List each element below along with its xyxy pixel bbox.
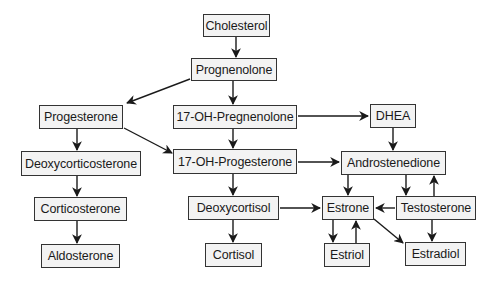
node-estradiol: Estradiol — [405, 242, 466, 266]
node-estriol: Estriol — [324, 243, 370, 267]
node-dhea: DHEA — [370, 104, 416, 128]
node-estrone: Estrone — [322, 196, 374, 220]
arrow-progesterone-to-17-oh-progesterone — [124, 128, 172, 153]
node-cortisol: Cortisol — [205, 243, 262, 267]
steroid-pathway-diagram: Cholesterol Prognenolone Progesterone 17… — [0, 0, 498, 285]
node-deoxycorticosterone: Deoxycorticosterone — [21, 151, 141, 176]
node-aldosterone: Aldosterone — [41, 244, 120, 268]
node-deoxycortisol: Deoxycortisol — [188, 196, 279, 220]
arrow-prognenolone-to-progesterone — [127, 79, 190, 103]
node-cholesterol: Cholesterol — [203, 14, 270, 37]
node-corticosterone: Corticosterone — [34, 197, 127, 221]
node-androstenedione: Androstenedione — [341, 151, 446, 175]
node-17-oh-progesterone: 17-OH-Progesterone — [173, 149, 297, 174]
arrow-estrone-to-estradiol — [374, 219, 403, 243]
node-testosterone: Testosterone — [396, 196, 476, 220]
node-progesterone: Progesterone — [39, 105, 123, 129]
node-prognenolone: Prognenolone — [191, 58, 277, 81]
node-17-oh-pregnenolone: 17-OH-Pregnenolone — [173, 105, 297, 129]
